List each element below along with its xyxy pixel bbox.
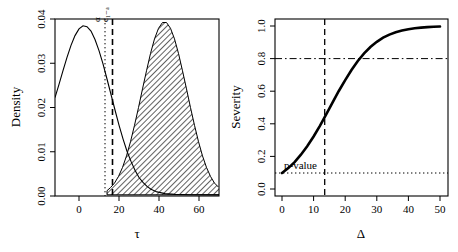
density-ytick-1: 0.01 [35,142,47,161]
p-value-label: p-value [284,159,317,171]
density-ytick-3: 0.03 [35,53,47,73]
severity-xtick-3: 30 [371,203,383,215]
severity-ytick-2: 0.4 [255,116,267,130]
density-xtick-0: 0 [76,203,82,215]
severity-ytick-1: 0.2 [255,150,267,164]
density-y-axis-title: Density [8,86,23,127]
severity-ytick-5: 1.0 [255,19,267,33]
severity-xtick-2: 20 [340,203,352,215]
cutoff-label: c₁₋ₐ [100,7,110,22]
severity-ytick-4: 0.8 [255,51,267,65]
statistical-figure: 0.00 0.01 0.02 0.03 0.04 Density 0 20 40… [0,0,458,252]
density-ytick-4: 0.04 [35,9,47,29]
severity-ytick-0: 0.0 [255,182,267,196]
severity-xtick-0: 0 [279,203,285,215]
density-x-axis-title: τ [134,226,139,241]
density-xtick-2: 40 [154,203,166,215]
density-xtick-3: 60 [194,203,206,215]
severity-xtick-5: 50 [435,203,447,215]
severity-xtick-1: 10 [308,203,320,215]
density-xtick-1: 20 [114,203,126,215]
density-ytick-0: 0.00 [35,186,47,206]
severity-x-axis-title: Δ [357,226,365,241]
density-ytick-2: 0.02 [35,98,47,117]
figure-canvas: 0.00 0.01 0.02 0.03 0.04 Density 0 20 40… [0,0,458,252]
severity-y-axis-title: Severity [228,85,243,129]
severity-xtick-4: 40 [403,203,415,215]
severity-ytick-3: 0.6 [255,84,267,98]
